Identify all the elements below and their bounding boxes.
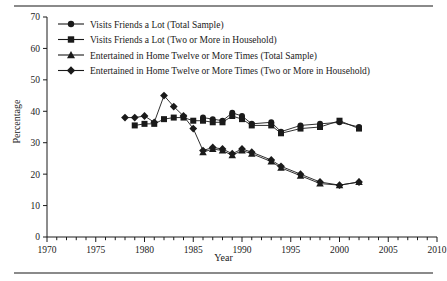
- square-data-marker: [142, 121, 148, 127]
- series-line: [135, 116, 359, 133]
- legend-label: Visits Friends a Lot (Two or More in Hou…: [90, 35, 277, 46]
- square-data-marker: [229, 113, 235, 119]
- diamond-data-marker: [189, 125, 197, 133]
- square-data-marker: [268, 122, 274, 128]
- legend-label: Entertained in Home Twelve or More Times…: [90, 66, 370, 77]
- y-tick-label: 10: [31, 201, 41, 211]
- diamond-data-marker: [141, 112, 149, 120]
- legend-entry-1: Visits Friends a Lot (Two or More in Hou…: [58, 35, 277, 46]
- diamond-data-marker: [199, 147, 207, 155]
- square-data-marker: [171, 115, 177, 121]
- square-data-marker: [161, 116, 167, 122]
- legend-entry-2: Entertained in Home Twelve or More Times…: [58, 51, 317, 62]
- circle-data-marker: [68, 21, 74, 27]
- square-data-marker: [132, 122, 138, 128]
- square-data-marker: [249, 122, 255, 128]
- square-data-marker: [220, 119, 226, 125]
- y-tick-label: 30: [31, 138, 41, 148]
- diamond-data-marker: [131, 114, 139, 122]
- data-series-1: [132, 113, 362, 136]
- data-series-3: [121, 92, 363, 189]
- diamond-data-marker: [267, 156, 275, 164]
- square-data-marker: [210, 119, 216, 125]
- square-data-marker: [317, 124, 323, 130]
- series-group: [121, 92, 363, 189]
- legend-label: Visits Friends a Lot (Total Sample): [90, 20, 224, 31]
- chart-canvas: 0102030405060701970197519801985199019952…: [0, 0, 447, 281]
- square-data-marker: [239, 116, 245, 122]
- y-axis-label: Percentage: [11, 82, 22, 162]
- x-axis-label: Year: [0, 252, 447, 263]
- square-data-marker: [298, 126, 304, 132]
- y-tick-label: 60: [31, 44, 41, 54]
- figure-container: 0102030405060701970197519801985199019952…: [0, 0, 447, 281]
- series-line: [125, 96, 359, 186]
- y-tick-label: 0: [35, 232, 40, 242]
- y-tick-label: 50: [31, 75, 41, 85]
- legend-group: Visits Friends a Lot (Total Sample)Visit…: [58, 20, 370, 78]
- y-tick-label: 40: [31, 107, 41, 117]
- y-tick-label: 70: [31, 12, 41, 22]
- square-data-marker: [278, 130, 284, 136]
- axes-group: 0102030405060701970197519801985199019952…: [31, 12, 447, 255]
- legend-entry-0: Visits Friends a Lot (Total Sample): [58, 20, 224, 31]
- square-data-marker: [337, 118, 343, 124]
- diamond-data-marker: [228, 150, 236, 158]
- square-data-marker: [356, 126, 362, 132]
- y-tick-label: 20: [31, 170, 41, 180]
- diamond-data-marker: [316, 178, 324, 186]
- diamond-data-marker: [67, 66, 75, 74]
- legend-entry-3: Entertained in Home Twelve or More Times…: [58, 66, 370, 77]
- square-data-marker: [200, 118, 206, 124]
- square-data-marker: [68, 36, 74, 42]
- legend-label: Entertained in Home Twelve or More Times…: [90, 51, 317, 62]
- diamond-data-marker: [121, 114, 129, 122]
- square-data-marker: [190, 118, 196, 124]
